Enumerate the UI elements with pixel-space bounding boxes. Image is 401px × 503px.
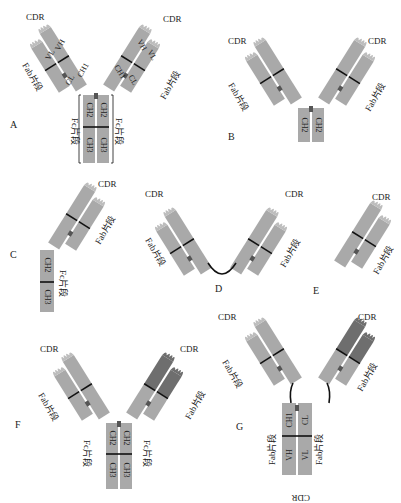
svg-text:CDR: CDR xyxy=(180,344,199,354)
svg-text:Fab片段: Fab片段 xyxy=(36,391,61,424)
svg-text:VH: VH xyxy=(285,449,294,461)
panel-b: CH2 CH2 CDR CDR Fab片段 Fab片段 B xyxy=(226,36,387,142)
svg-text:CDR: CDR xyxy=(372,192,391,202)
cdr-label: CDR xyxy=(26,12,45,22)
svg-text:CDR: CDR xyxy=(98,179,117,189)
svg-text:CDR: CDR xyxy=(218,312,237,322)
svg-text:CDR: CDR xyxy=(291,493,310,503)
svg-text:CH2: CH2 xyxy=(300,117,309,132)
panel-label-b: B xyxy=(228,131,235,142)
svg-text:CDR: CDR xyxy=(163,14,182,24)
svg-text:Fab片段: Fab片段 xyxy=(157,68,182,101)
panel-g: CH1 CL VH VL Fab片段 Fab片段 CDR CDR CDR Fab… xyxy=(218,312,381,503)
svg-text:CH2: CH2 xyxy=(122,430,131,445)
svg-text:Fab片段: Fab片段 xyxy=(362,80,387,113)
panel-e: CDR Fab片段 E xyxy=(313,192,397,296)
svg-text:Fc片段: Fc片段 xyxy=(82,440,93,467)
svg-text:Fab片段: Fab片段 xyxy=(182,388,207,421)
svg-text:CDR: CDR xyxy=(145,189,164,199)
svg-text:CH2: CH2 xyxy=(99,102,108,117)
svg-text:Fab片段: Fab片段 xyxy=(277,236,302,269)
panel-f: CH2 CH2 CH3 CH3 Fc片段 Fc片段 CDR CDR Fab片段 … xyxy=(15,344,207,489)
svg-text:VL: VL xyxy=(301,450,310,461)
svg-text:Fc片段: Fc片段 xyxy=(142,440,153,467)
svg-text:Fab片段: Fab片段 xyxy=(226,81,251,114)
svg-text:CDR: CDR xyxy=(368,36,387,46)
svg-text:CH2: CH2 xyxy=(108,430,117,445)
fab-label: Fab片段 xyxy=(20,61,45,94)
svg-text:CDR: CDR xyxy=(40,344,59,354)
svg-text:Fc片段: Fc片段 xyxy=(58,270,69,297)
panel-label-f: F xyxy=(15,419,21,430)
svg-text:Fab片段: Fab片段 xyxy=(266,434,277,466)
antibody-diagram: CH2 CH2 CH3 CH3 Fc片段 Fc片段 CDR CDR Fab片段 … xyxy=(0,0,401,503)
svg-text:Fc片段: Fc片段 xyxy=(114,118,125,145)
svg-text:CH2: CH2 xyxy=(314,117,323,132)
domain-ch3: CH3 xyxy=(85,137,94,152)
svg-text:CH3: CH3 xyxy=(108,462,117,477)
panel-label-a: A xyxy=(10,119,18,130)
domain-ch2: CH2 xyxy=(85,102,94,117)
panel-label-d: D xyxy=(215,283,222,294)
svg-text:CDR: CDR xyxy=(228,36,247,46)
svg-text:CH3: CH3 xyxy=(122,462,131,477)
svg-text:CH2: CH2 xyxy=(43,257,52,272)
fc-label: Fc片段 xyxy=(70,118,81,145)
panel-label-g: G xyxy=(236,421,243,432)
svg-text:CDR: CDR xyxy=(285,189,304,199)
panel-a: CH2 CH2 CH3 CH3 Fc片段 Fc片段 CDR CDR Fab片段 … xyxy=(10,12,182,163)
svg-text:CDR: CDR xyxy=(358,312,377,322)
svg-text:CH1: CH1 xyxy=(285,412,294,427)
panel-c: CH2 CH3 Fc片段 CDR Fab片段 C xyxy=(10,179,117,312)
svg-text:Fab片段: Fab片段 xyxy=(313,434,324,466)
panel-label-e: E xyxy=(313,285,319,296)
svg-text:Fab片段: Fab片段 xyxy=(220,358,245,391)
svg-text:CH1: CH1 xyxy=(75,61,90,79)
svg-text:CL: CL xyxy=(301,415,310,425)
panel-label-c: C xyxy=(10,249,17,260)
panel-d: CDR CDR Fab片段 Fab片段 D xyxy=(143,189,303,294)
svg-text:CH3: CH3 xyxy=(43,289,52,304)
svg-text:CH3: CH3 xyxy=(99,137,108,152)
